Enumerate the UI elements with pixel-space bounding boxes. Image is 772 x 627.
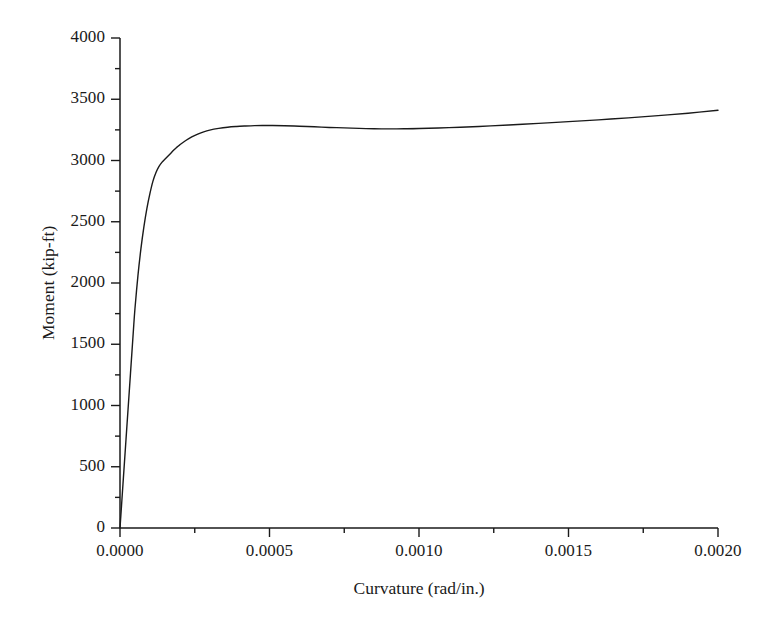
x-tick-label: 0.0005	[220, 541, 320, 561]
y-tick-marks	[111, 38, 120, 528]
axes-group	[120, 38, 718, 528]
x-tick-label: 0.0020	[668, 541, 768, 561]
y-axis-title: Moment (kip-ft)	[38, 226, 59, 340]
x-tick-label: 0.0015	[519, 541, 619, 561]
data-series-group	[120, 110, 718, 528]
y-tick-label: 1000	[47, 395, 105, 415]
y-tick-label: 0	[47, 517, 105, 537]
y-tick-label: 3000	[47, 150, 105, 170]
plot-canvas	[0, 0, 772, 627]
x-axis-title: Curvature (rad/in.)	[354, 578, 485, 599]
x-tick-marks	[120, 528, 718, 537]
chart-figure: 05001000150020002500300035004000 0.00000…	[0, 0, 772, 627]
y-tick-label: 3500	[47, 88, 105, 108]
x-tick-label: 0.0010	[369, 541, 469, 561]
data-line-moment-curvature	[120, 110, 718, 528]
x-tick-label: 0.0000	[70, 541, 170, 561]
y-tick-label: 4000	[47, 27, 105, 47]
y-tick-label: 500	[47, 456, 105, 476]
